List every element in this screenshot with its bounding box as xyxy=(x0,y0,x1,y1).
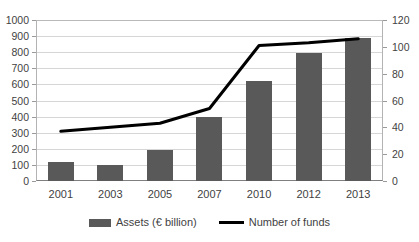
right-axis-tick-80: 80 xyxy=(392,68,404,80)
right-axis-tick-120: 120 xyxy=(392,14,410,26)
left-axis-tick-800: 800 xyxy=(11,46,29,58)
right-axis-tickmark xyxy=(383,154,387,155)
legend-entry-number-of-funds: Number of funds xyxy=(219,216,330,229)
left-axis-tickmark xyxy=(32,133,36,134)
left-axis-tickmark xyxy=(32,149,36,150)
left-axis-tick-700: 700 xyxy=(11,62,29,74)
category-label-2001: 2001 xyxy=(36,186,86,202)
category-axis: 2001200320052007201020122013 xyxy=(36,186,383,202)
left-value-axis: 01002003004005006007008009001000 xyxy=(0,20,34,181)
right-axis-tick-20: 20 xyxy=(392,148,404,160)
right-axis-tickmark xyxy=(383,127,387,128)
line-series-number-of-funds xyxy=(36,20,383,181)
left-axis-tick-500: 500 xyxy=(11,95,29,107)
right-axis-tick-100: 100 xyxy=(392,41,410,53)
category-label-2003: 2003 xyxy=(86,186,136,202)
right-axis-tickmark xyxy=(383,47,387,48)
combo-chart: 01002003004005006007008009001000 0204060… xyxy=(0,0,419,242)
line-swatch-icon xyxy=(219,221,244,224)
category-label-2007: 2007 xyxy=(185,186,235,202)
number-of-funds-polyline xyxy=(61,39,358,132)
left-axis-tick-400: 400 xyxy=(11,111,29,123)
legend-entry-assets: Assets (€ billion) xyxy=(89,216,197,229)
right-axis-tickmark xyxy=(383,181,387,182)
left-axis-tick-600: 600 xyxy=(11,78,29,90)
left-axis-tick-200: 200 xyxy=(11,143,29,155)
legend-label-number-of-funds: Number of funds xyxy=(249,216,330,229)
left-axis-tickmark xyxy=(32,36,36,37)
left-axis-tick-100: 100 xyxy=(11,159,29,171)
legend-label-assets: Assets (€ billion) xyxy=(116,216,197,229)
category-label-2013: 2013 xyxy=(333,186,383,202)
left-axis-tickmark xyxy=(32,101,36,102)
left-axis-tickmark xyxy=(32,181,36,182)
category-label-2012: 2012 xyxy=(284,186,334,202)
line-series-svg xyxy=(36,20,383,181)
right-axis-tick-0: 0 xyxy=(392,175,398,187)
left-axis-tick-300: 300 xyxy=(11,127,29,139)
category-label-2005: 2005 xyxy=(135,186,185,202)
left-axis-tick-0: 0 xyxy=(23,175,29,187)
left-axis-tick-1000: 1000 xyxy=(6,14,29,26)
left-axis-tickmark xyxy=(32,84,36,85)
left-axis-tickmark xyxy=(32,52,36,53)
bar-swatch-icon xyxy=(89,219,111,227)
right-axis-tickmark xyxy=(383,20,387,21)
right-axis-tick-60: 60 xyxy=(392,95,404,107)
right-axis-tick-40: 40 xyxy=(392,121,404,133)
chart-legend: Assets (€ billion) Number of funds xyxy=(0,216,419,229)
right-axis-tickmark xyxy=(383,101,387,102)
left-axis-tick-900: 900 xyxy=(11,30,29,42)
right-value-axis: 020406080100120 xyxy=(385,20,419,181)
right-axis-tickmark xyxy=(383,74,387,75)
left-axis-tickmark xyxy=(32,68,36,69)
left-axis-tickmark xyxy=(32,20,36,21)
left-axis-tickmark xyxy=(32,117,36,118)
left-axis-tickmark xyxy=(32,165,36,166)
category-label-2010: 2010 xyxy=(234,186,284,202)
